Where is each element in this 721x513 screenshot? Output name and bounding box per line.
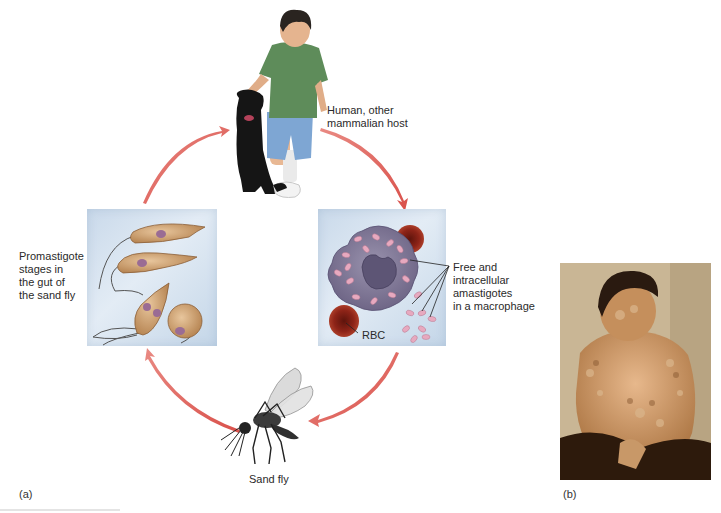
macrophage-label: Free and intracellular amastigotes in a …	[453, 261, 535, 313]
patient-figure	[560, 263, 711, 480]
macrophage-label-line2: intracellular	[453, 274, 535, 287]
macrophage-label-line4: in a macrophage	[453, 300, 535, 313]
sandfly-label: Sand fly	[249, 473, 289, 486]
sand-fly-illustration	[215, 368, 325, 468]
bottom-rule	[0, 509, 120, 511]
panel-b-label: (b)	[563, 488, 576, 500]
macrophage-label-line1: Free and	[453, 261, 535, 274]
panel-a-label: (a)	[19, 488, 32, 500]
macrophage-label-line3: amastigotes	[453, 287, 535, 300]
patient-photo	[560, 263, 711, 480]
rbc-label: RBC	[362, 329, 385, 342]
